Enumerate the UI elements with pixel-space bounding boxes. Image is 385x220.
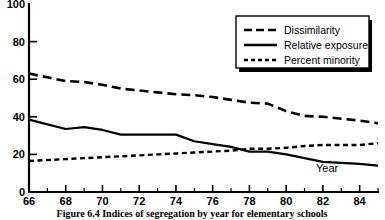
segregation-indices-line-chart: 020406080100 66687072747678808284 Year D… [0,0,385,220]
x-tick-label: 76 [207,195,219,207]
x-tick-label: 68 [60,195,72,207]
legend-label-percent-minority: Percent minority [284,54,361,66]
y-axis-tick-labels: 020406080100 [7,0,25,198]
y-tick-label: 20 [13,148,25,160]
x-axis-label: Year [316,162,339,174]
y-tick-label: 40 [13,111,25,123]
figure-container: 020406080100 66687072747678808284 Year D… [0,0,385,220]
x-tick-label: 66 [23,195,35,207]
series-percent-minority [29,143,378,161]
figure-caption: Figure 6.4 Indices of segregation by yea… [57,208,328,219]
x-tick-label: 84 [354,195,367,207]
x-tick-label: 78 [243,195,255,207]
y-tick-label: 80 [13,36,25,48]
legend-label-relative-exposure: Relative exposure [284,39,368,51]
data-series-group [29,74,378,166]
y-axis-ticks [29,42,37,155]
x-tick-label: 80 [280,195,292,207]
legend-label-dissimilarity: Dissimilarity [284,24,341,36]
x-tick-label: 74 [170,195,183,207]
x-tick-label: 82 [317,195,329,207]
x-tick-label: 70 [96,195,108,207]
chart-legend: DissimilarityRelative exposurePercent mi… [236,16,372,72]
series-dissimilarity [29,74,378,124]
x-tick-label: 72 [133,195,145,207]
x-axis-tick-labels: 66687072747678808284 [23,195,367,207]
y-tick-label: 100 [7,0,25,10]
y-tick-label: 60 [13,73,25,85]
